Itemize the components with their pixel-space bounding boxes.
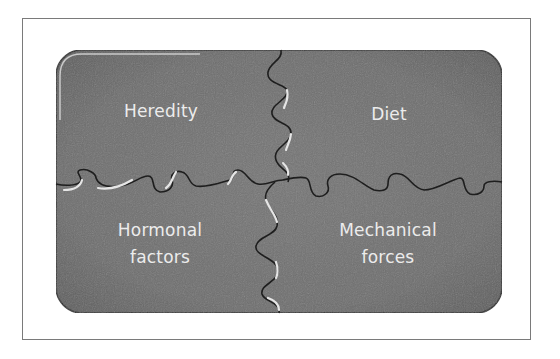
label-mechanical-forces-line-2: forces xyxy=(339,244,437,271)
label-hormonal-factors-line-2: factors xyxy=(118,244,202,271)
label-heredity-line-1: Heredity xyxy=(124,98,198,125)
label-hormonal-factors: Hormonal factors xyxy=(118,217,202,271)
label-mechanical-forces-line-1: Mechanical xyxy=(339,217,437,244)
puzzle-board xyxy=(0,0,560,359)
label-heredity: Heredity xyxy=(124,98,198,125)
label-diet-line-1: Diet xyxy=(371,101,407,128)
puzzle-body xyxy=(56,50,502,313)
label-diet: Diet xyxy=(371,101,407,128)
label-hormonal-factors-line-1: Hormonal xyxy=(118,217,202,244)
label-mechanical-forces: Mechanical forces xyxy=(339,217,437,271)
